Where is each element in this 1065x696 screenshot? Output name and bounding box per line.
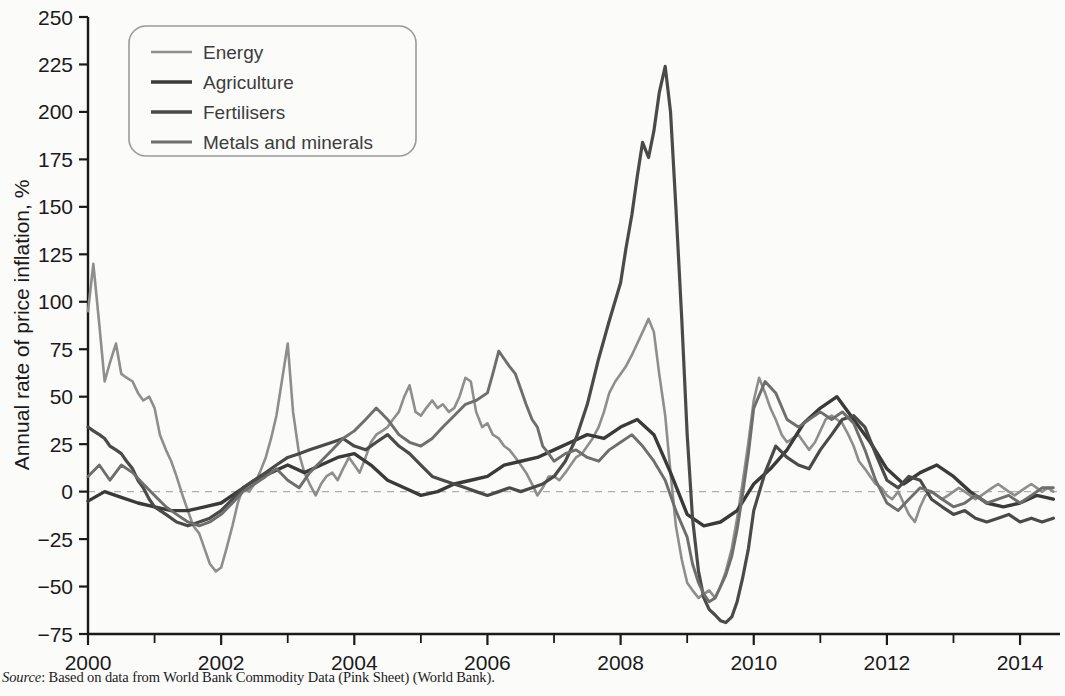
y-tick-label: −25	[37, 528, 73, 551]
commodity-price-inflation-chart: −75−50−250255075100125150175200225250 20…	[0, 0, 1065, 696]
y-tick-label: 125	[38, 243, 73, 266]
x-tick-label: 2014	[997, 651, 1044, 674]
y-axis-title: Annual rate of price inflation, %	[10, 180, 33, 471]
y-tick-label: 225	[38, 53, 73, 76]
y-tick-label: 50	[50, 385, 73, 408]
y-tick-label: 0	[61, 480, 73, 503]
y-tick-label: 200	[38, 100, 73, 123]
x-tick-label: 2008	[597, 651, 644, 674]
legend-label-agriculture: Agriculture	[203, 72, 294, 93]
legend-label-fertilisers: Fertilisers	[203, 102, 285, 123]
y-tick-label: 25	[50, 433, 73, 456]
legend-label-energy: Energy	[203, 42, 264, 63]
x-tick-label: 2012	[864, 651, 911, 674]
chart-page: −75−50−250255075100125150175200225250 20…	[0, 0, 1065, 696]
legend-label-metals-and-minerals: Metals and minerals	[203, 132, 373, 153]
source-caption: Source: Based on data from World Bank Co…	[2, 669, 495, 686]
x-tick-label: 2010	[730, 651, 777, 674]
y-tick-label: −50	[37, 575, 73, 598]
y-tick-label: −75	[37, 623, 73, 646]
source-label: Source	[2, 669, 41, 685]
y-tick-label: 250	[38, 6, 73, 29]
chart-legend: EnergyAgricultureFertilisersMetals and m…	[129, 26, 416, 156]
source-text: : Based on data from World Bank Commodit…	[41, 669, 495, 685]
y-tick-label: 100	[38, 290, 73, 313]
y-tick-label: 150	[38, 195, 73, 218]
y-tick-label: 75	[50, 338, 73, 361]
y-tick-label: 175	[38, 148, 73, 171]
y-axis-title-text: Annual rate of price inflation, %	[10, 180, 33, 471]
